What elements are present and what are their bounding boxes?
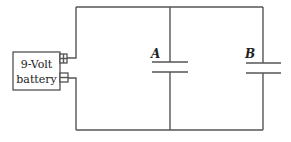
positive-lead-wire [67, 7, 76, 58]
wires [67, 7, 263, 130]
battery-label-line1: 9-Volt [21, 58, 53, 71]
capacitor-b-label: B [244, 47, 255, 61]
positive-terminal-icon [60, 54, 67, 63]
capacitor-a-label: A [150, 47, 160, 61]
battery: 9-Volt battery [13, 52, 68, 90]
negative-terminal-icon [60, 73, 68, 82]
negative-lead-wire [68, 78, 76, 130]
circuit-diagram: A B 9-Volt battery [0, 0, 291, 142]
capacitor-a: A [150, 47, 188, 72]
battery-label-line2: battery [16, 73, 57, 86]
